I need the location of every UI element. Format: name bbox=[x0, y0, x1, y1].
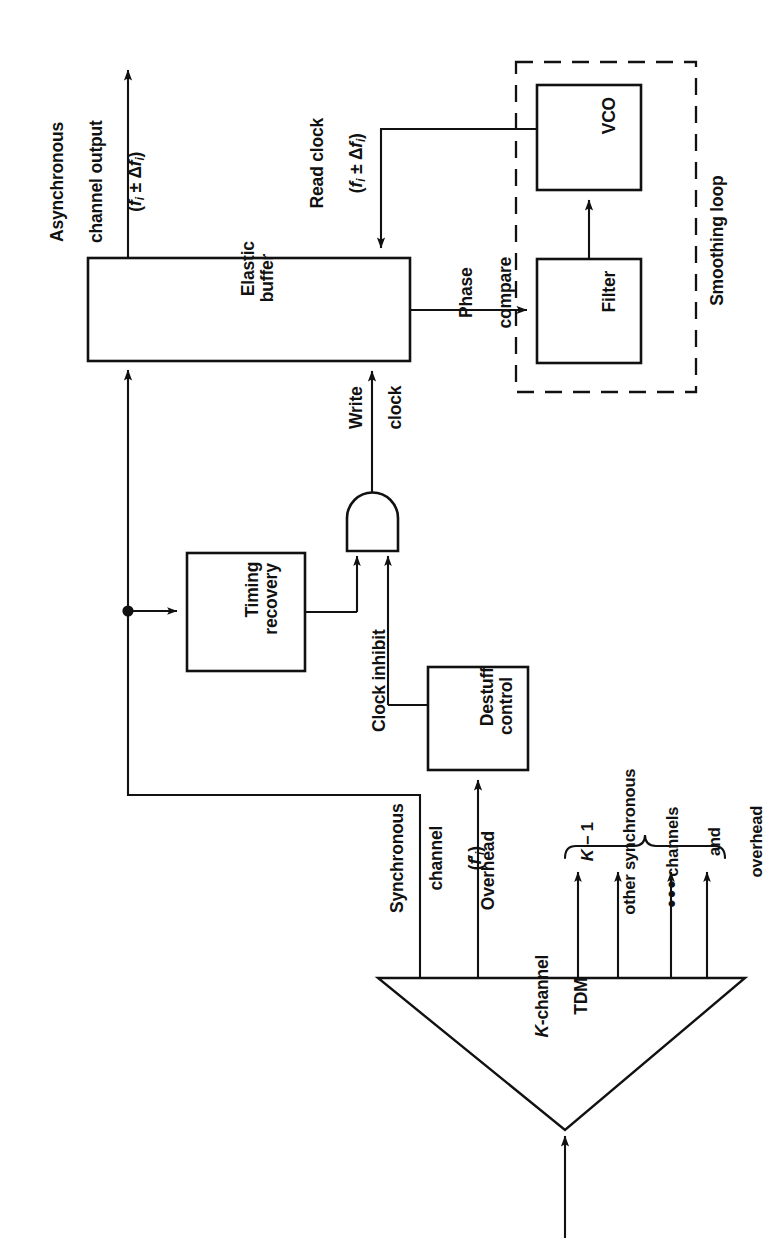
label-phase-compare: Phase compare bbox=[437, 232, 535, 372]
label-clock-inhibit: Clock inhibit bbox=[350, 610, 409, 770]
label-timing-recovery: Timing recovery bbox=[223, 530, 301, 668]
read-clock-path bbox=[381, 129, 537, 248]
label-read-clock: Read clock (fi ± Δfi) bbox=[288, 80, 388, 265]
label-async-channel-output: Asynchronous channel output (fi ± Δfi) bbox=[28, 66, 167, 316]
label-ellipsis: ••• bbox=[635, 880, 709, 940]
label-destuff-control: Destuff control bbox=[458, 646, 536, 766]
label-kchannel-tdm: K-channel TDM bbox=[513, 918, 611, 1093]
label-write-clock: Write clock bbox=[327, 357, 425, 477]
diagram-canvas: Asynchronous channel output (fi ± Δfi) R… bbox=[0, 0, 775, 1259]
label-elastic-buffer: Elastic buffer bbox=[219, 198, 297, 358]
label-overhead: Overhead bbox=[459, 800, 518, 960]
label-vco: VCO bbox=[580, 70, 639, 180]
label-smoothing-loop: Smoothing loop bbox=[688, 125, 747, 375]
label-filter: Filter bbox=[580, 246, 639, 356]
and-gate-shape bbox=[347, 493, 398, 551]
